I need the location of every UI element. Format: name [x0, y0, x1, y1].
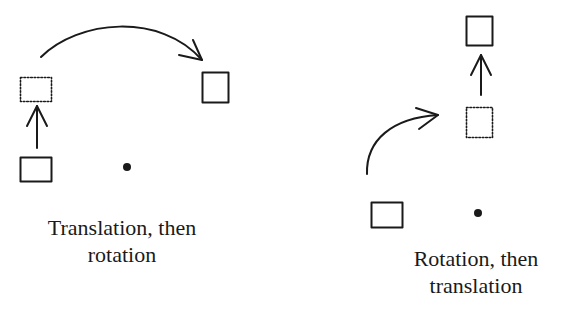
- caption-rotation-then-translation: Rotation, then translation: [376, 245, 571, 299]
- original-box: [372, 203, 403, 228]
- caption-line-1: Translation, then: [22, 214, 222, 241]
- intermediate-box-dotted: [21, 78, 52, 102]
- rotation-arrow-curved-icon: [41, 27, 202, 60]
- caption-line-2: translation: [376, 272, 571, 299]
- intermediate-box-dotted: [467, 108, 493, 138]
- translation-arrow-up-icon: [471, 55, 491, 95]
- translation-arrow-up-icon: [27, 106, 47, 148]
- caption-line-2: rotation: [22, 241, 222, 268]
- rotation-arrow-curved-icon: [367, 108, 438, 174]
- original-box: [21, 158, 52, 182]
- caption-line-1: Rotation, then: [376, 245, 571, 272]
- final-box: [467, 17, 493, 46]
- final-box: [203, 73, 229, 103]
- pivot-point: [474, 209, 482, 217]
- caption-translation-then-rotation: Translation, then rotation: [22, 214, 222, 268]
- pivot-point: [123, 163, 131, 171]
- panel-rotation-then-translation: [367, 17, 493, 228]
- panel-translation-then-rotation: [21, 27, 229, 182]
